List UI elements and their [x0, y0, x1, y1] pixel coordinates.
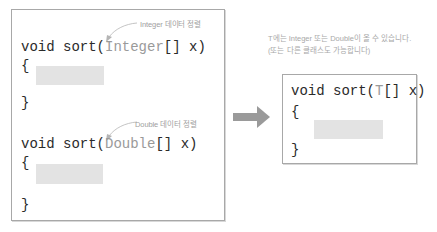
- close-brace: }: [21, 197, 29, 213]
- integer-sort-signature: void sort(Integer[] x): [21, 39, 206, 55]
- generic-sort-signature: void sort(T[] x): [291, 83, 425, 99]
- close-brace: }: [291, 142, 299, 158]
- code-text: [] x): [164, 39, 206, 55]
- double-sort-signature: void sort(Double[] x): [21, 136, 197, 152]
- right-arrow-icon: [233, 106, 273, 130]
- code-text: void sort(: [21, 136, 105, 152]
- type-integer: Integer: [105, 39, 164, 55]
- method-body-placeholder: [36, 66, 104, 85]
- close-brace: }: [21, 95, 29, 111]
- code-text: void sort(: [21, 39, 105, 55]
- generic-caption: T에는 Integer 또는 Double이 올 수 있습니다. (또는 다른 …: [268, 33, 411, 57]
- open-brace: {: [21, 58, 29, 74]
- open-brace: {: [21, 155, 29, 171]
- caption-line-2: (또는 다른 클래스도 가능합니다): [268, 45, 411, 57]
- code-text: void sort(: [291, 83, 375, 99]
- type-double: Double: [105, 136, 155, 152]
- method-body-placeholder: [36, 164, 103, 184]
- code-text: [] x): [383, 83, 425, 99]
- code-text: [] x): [155, 136, 197, 152]
- open-brace: {: [291, 104, 299, 120]
- integer-annotation: Integer 데이터 정렬: [140, 18, 201, 29]
- caption-line-1: T에는 Integer 또는 Double이 올 수 있습니다.: [268, 33, 411, 45]
- method-body-placeholder: [314, 120, 383, 139]
- double-annotation: Double 데이터 정렬: [135, 118, 197, 129]
